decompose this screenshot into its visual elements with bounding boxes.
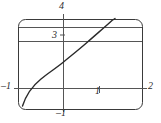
label-x-neg1: –1 [56,108,66,118]
curve-path [23,19,116,107]
label-x-2: 2 [148,81,153,91]
plot-canvas [0,0,161,123]
label-y-max: 4 [59,1,64,11]
graph-figure: 4 3 –1 1 2 –1 [0,0,161,123]
label-y-neg1: –1 [1,81,11,91]
plot-frame [19,20,143,110]
label-x-tick-1: 1 [95,86,100,96]
label-y-tick-3: 3 [52,30,57,40]
